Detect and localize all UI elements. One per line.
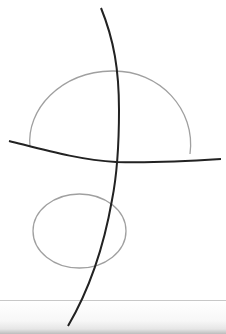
upper-dome bbox=[30, 71, 191, 154]
vertical-curve bbox=[68, 8, 119, 326]
horizontal-curve bbox=[9, 141, 221, 162]
